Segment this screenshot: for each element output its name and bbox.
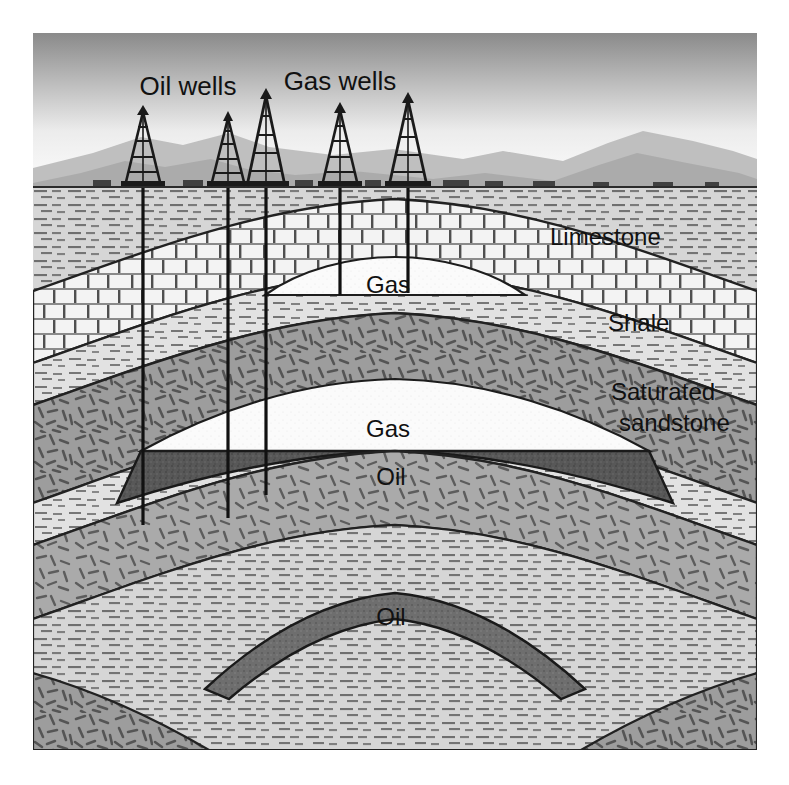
figure-root: Oil wells Gas wells Limestone Shale Satu…	[0, 0, 789, 785]
label-saturated-sandstone-line1: Saturated	[611, 378, 715, 405]
label-shale: Shale	[608, 309, 669, 336]
label-oil-lower: Oil	[376, 603, 405, 630]
label-limestone: Limestone	[550, 223, 661, 250]
geological-cross-section-diagram: Oil wells Gas wells Limestone Shale Satu…	[33, 33, 757, 750]
cross-section-svg: Oil wells Gas wells Limestone Shale Satu…	[33, 33, 757, 750]
label-oil-middle: Oil	[376, 463, 405, 490]
label-oil-wells: Oil wells	[140, 71, 237, 101]
label-gas-wells: Gas wells	[284, 66, 397, 96]
label-gas-middle: Gas	[366, 415, 410, 442]
label-saturated-sandstone-line2: sandstone	[619, 409, 730, 436]
label-gas-upper: Gas	[366, 271, 410, 298]
